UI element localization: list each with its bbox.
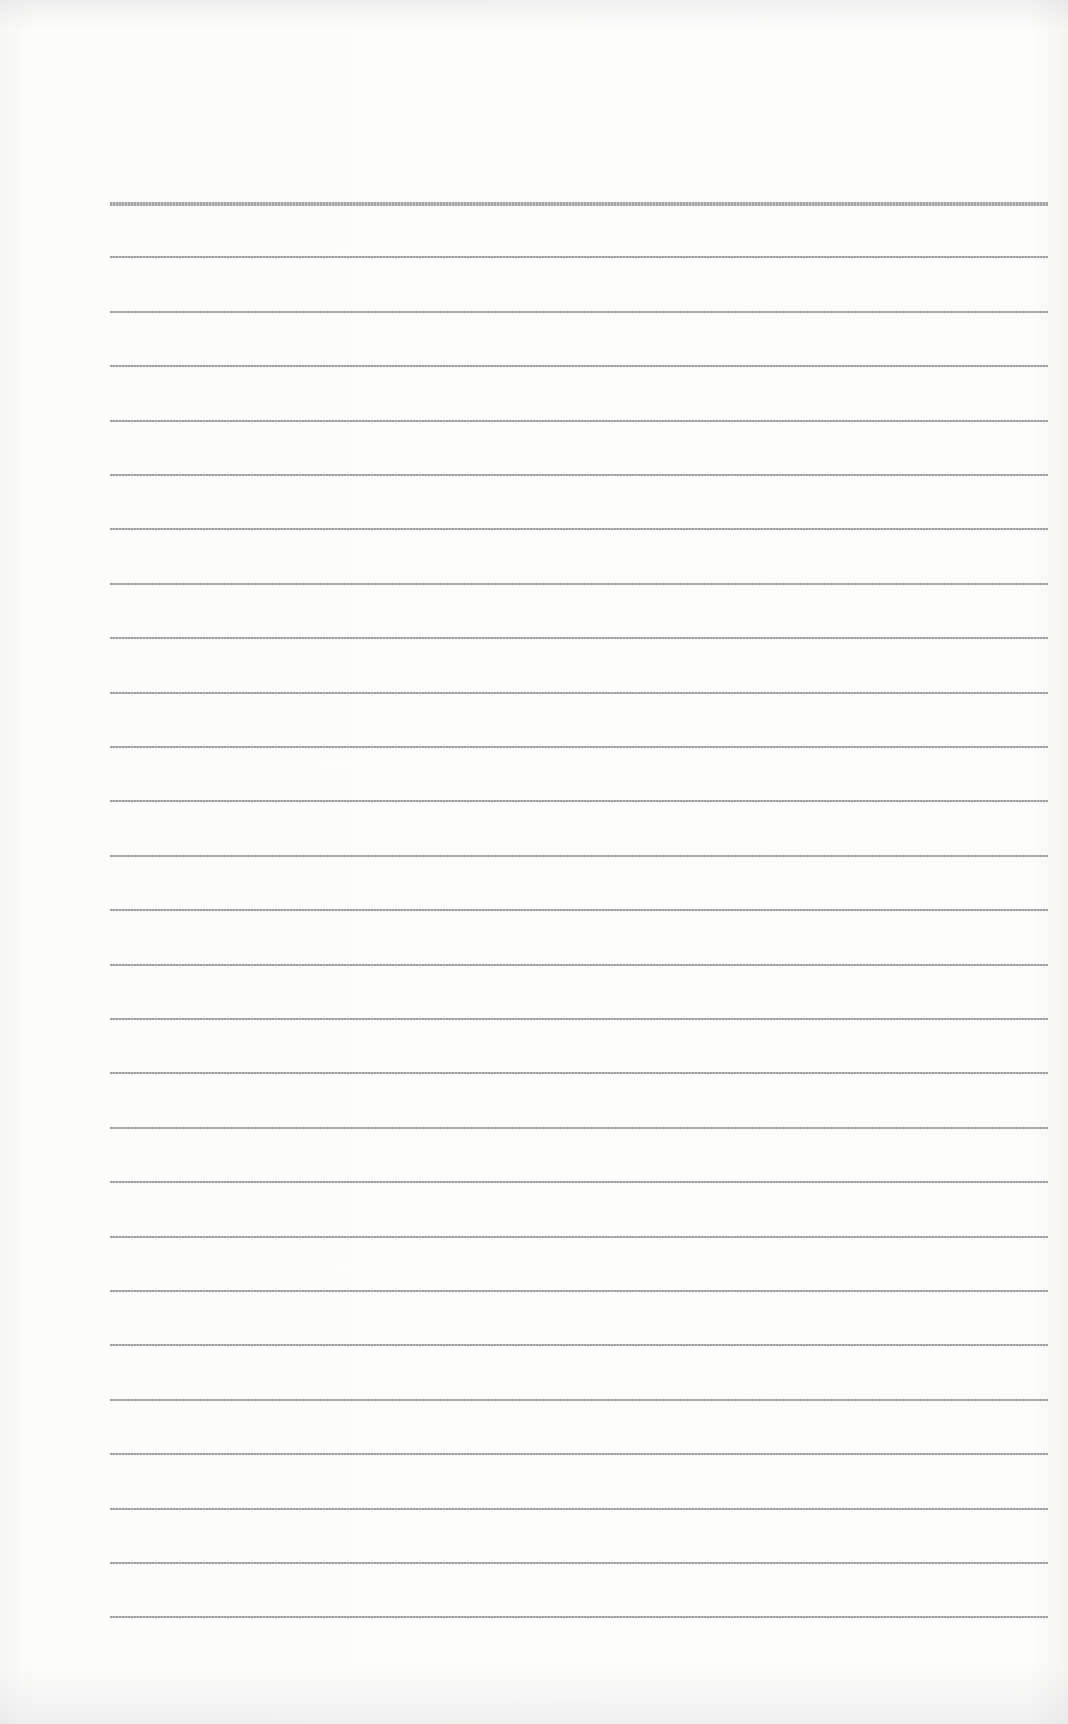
ruled-line	[110, 746, 1048, 748]
top-edge-bleed-through	[0, 0, 1068, 30]
ruled-line	[110, 1072, 1048, 1074]
bottom-edge-shadow	[0, 1664, 1068, 1724]
ruled-line	[110, 202, 1048, 206]
ruled-line	[110, 583, 1048, 585]
ruled-line	[110, 528, 1048, 530]
lined-paper-page	[0, 0, 1068, 1724]
ruled-line	[110, 1018, 1048, 1020]
ruled-line	[110, 909, 1048, 911]
ruled-line	[110, 800, 1048, 802]
ruled-line	[110, 1399, 1048, 1401]
ruled-line	[110, 474, 1048, 476]
ruled-line	[110, 365, 1048, 367]
ruled-line	[110, 1181, 1048, 1183]
ruled-line	[110, 1290, 1048, 1292]
ruled-line	[110, 256, 1048, 258]
ruled-line	[110, 1562, 1048, 1564]
ruled-line	[110, 637, 1048, 639]
ruled-line	[110, 1508, 1048, 1510]
ruled-line	[110, 420, 1048, 422]
ruled-line	[110, 1453, 1048, 1455]
ruled-line	[110, 311, 1048, 313]
ruled-line	[110, 1236, 1048, 1238]
ruled-line	[110, 1616, 1048, 1618]
ruled-line	[110, 1344, 1048, 1346]
ruled-line	[110, 692, 1048, 694]
ruled-line	[110, 1127, 1048, 1129]
ruled-line	[110, 964, 1048, 966]
ruled-line	[110, 855, 1048, 857]
